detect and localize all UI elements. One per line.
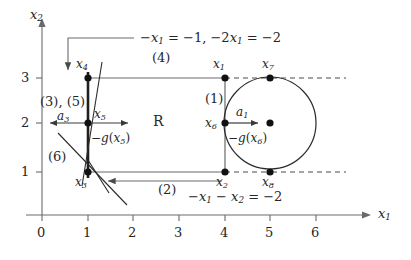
point-label-x3: x3 xyxy=(75,176,87,189)
point-circle-center xyxy=(266,119,273,126)
data-points xyxy=(84,74,273,175)
axis-label-y: x2 xyxy=(30,8,43,23)
point-x6 xyxy=(221,119,228,126)
y-tick-2: 2 xyxy=(21,116,29,129)
figure-canvas: x2 x1 0 1 2 3 4 5 6 1 2 3 −x1 = −1, −2x1… xyxy=(0,0,411,260)
point-label-x4: x4 xyxy=(76,58,88,71)
point-label-x8: x8 xyxy=(262,176,274,189)
point-x3 xyxy=(84,168,91,175)
step-marker-3-5: (3), (5) xyxy=(40,95,85,108)
y-tick-1: 1 xyxy=(21,165,29,178)
point-label-x2: x2 xyxy=(216,176,228,189)
point-x7 xyxy=(266,74,273,81)
x-tick-6: 6 xyxy=(311,226,319,239)
vector-label-a3: a3 xyxy=(57,110,69,123)
step-marker-1: (1) xyxy=(205,92,223,105)
constraint-label-bottom: −x1 − x2 = −2 xyxy=(188,190,282,205)
x-tick-5: 5 xyxy=(265,226,273,239)
dashed-extension-lines xyxy=(225,78,346,172)
vector-label-a1: a1 xyxy=(236,106,248,119)
axis-y xyxy=(38,18,45,215)
y-tick-3: 3 xyxy=(21,71,29,84)
axis-x xyxy=(26,211,371,218)
point-x1 xyxy=(221,74,228,81)
step-marker-6: (6) xyxy=(48,150,66,163)
x-tick-2: 2 xyxy=(128,226,136,239)
point-x4 xyxy=(84,74,91,81)
x-tick-3: 3 xyxy=(174,226,182,239)
constraint-label-top: −x1 = −1, −2x1 = −2 xyxy=(140,31,281,46)
point-label-x7: x7 xyxy=(262,58,274,71)
x-tick-1: 1 xyxy=(83,226,91,239)
step-marker-2: (2) xyxy=(158,183,176,196)
step-marker-4: (4) xyxy=(152,51,170,64)
point-x5 xyxy=(84,119,91,126)
x-tick-0: 0 xyxy=(37,226,45,239)
point-label-x1: x1 xyxy=(213,58,225,71)
gradient-label-x6: −g(x6) xyxy=(228,132,267,145)
axis-label-x: x1 xyxy=(378,207,391,222)
region-label: R xyxy=(153,114,164,128)
x-tick-4: 4 xyxy=(220,226,228,239)
gradient-label-x5: −g(x5) xyxy=(91,132,130,145)
point-label-x6: x6 xyxy=(205,117,217,130)
point-label-x5: x5 xyxy=(94,108,106,121)
